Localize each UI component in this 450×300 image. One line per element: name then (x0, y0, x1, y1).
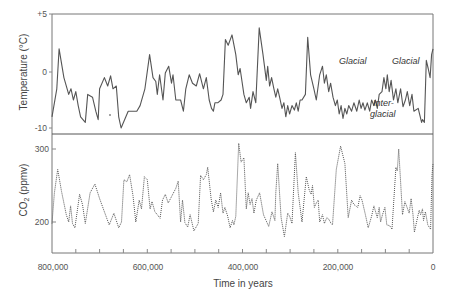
x-axis-ticks (76, 249, 409, 253)
ytick-label-zero: 0 (42, 67, 47, 77)
annotation-glacial-2: Glacial (392, 56, 421, 66)
temperature-y-axis: +5 0 -10 Temperature (°C) (18, 9, 52, 133)
xtick-label-600k: 600,000 (133, 262, 164, 272)
x-axis-title: Time in years (213, 278, 273, 289)
plot-frame (52, 14, 433, 253)
ytick-label-plus5: +5 (37, 9, 47, 19)
co2-y-axis: 300 200 CO2 (ppmv) (18, 144, 56, 227)
xtick-label-800k: 800,000 (38, 262, 69, 272)
annotation-glacial-1: Glacial (339, 56, 368, 66)
xtick-label-0: 0 (431, 262, 436, 272)
co2-label-unit: (ppmv) (18, 164, 29, 198)
temperature-axis-title: Temperature (°C) (18, 34, 29, 111)
climate-chart: +5 0 -10 Temperature (°C) 300 200 CO2 (p… (0, 0, 450, 300)
co2-label-main: CO (18, 201, 29, 216)
ytick-label-minus10: -10 (35, 123, 48, 133)
annotation-interglacial-2: glacial (370, 109, 397, 119)
co2-axis-title: CO2 (ppmv) (18, 164, 30, 217)
annotation-interglacial-1: Inter- (373, 98, 394, 108)
x-axis-labels: 800,000 600,000 400,000 200,000 0 Time i… (38, 262, 436, 289)
xtick-label-400k: 400,000 (228, 262, 259, 272)
co2-series-line (52, 143, 433, 236)
ytick-label-300: 300 (35, 144, 49, 154)
ytick-label-200: 200 (35, 217, 49, 227)
xtick-label-200k: 200,000 (323, 262, 354, 272)
stray-dot (109, 114, 111, 116)
